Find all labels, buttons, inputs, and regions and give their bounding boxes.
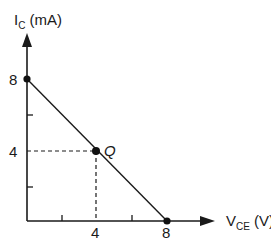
load-line-diagram: IC(mA) VCE(V) 8 4 4 8 Q	[0, 0, 271, 244]
y-tick-label-8: 8	[9, 71, 17, 88]
y-axis-label: IC(mA)	[14, 11, 62, 31]
x-tick-label-8: 8	[162, 224, 170, 241]
q-point-label: Q	[104, 142, 116, 159]
q-point-marker	[92, 147, 100, 155]
x-axis-arrow-icon	[200, 216, 215, 226]
y-axis-arrow-icon	[22, 33, 32, 47]
y-tick-label-4: 4	[9, 143, 17, 160]
x-tick-label-4: 4	[91, 224, 99, 241]
x-axis-label: VCE(V)	[226, 212, 271, 232]
point-ic-intercept	[23, 75, 30, 82]
